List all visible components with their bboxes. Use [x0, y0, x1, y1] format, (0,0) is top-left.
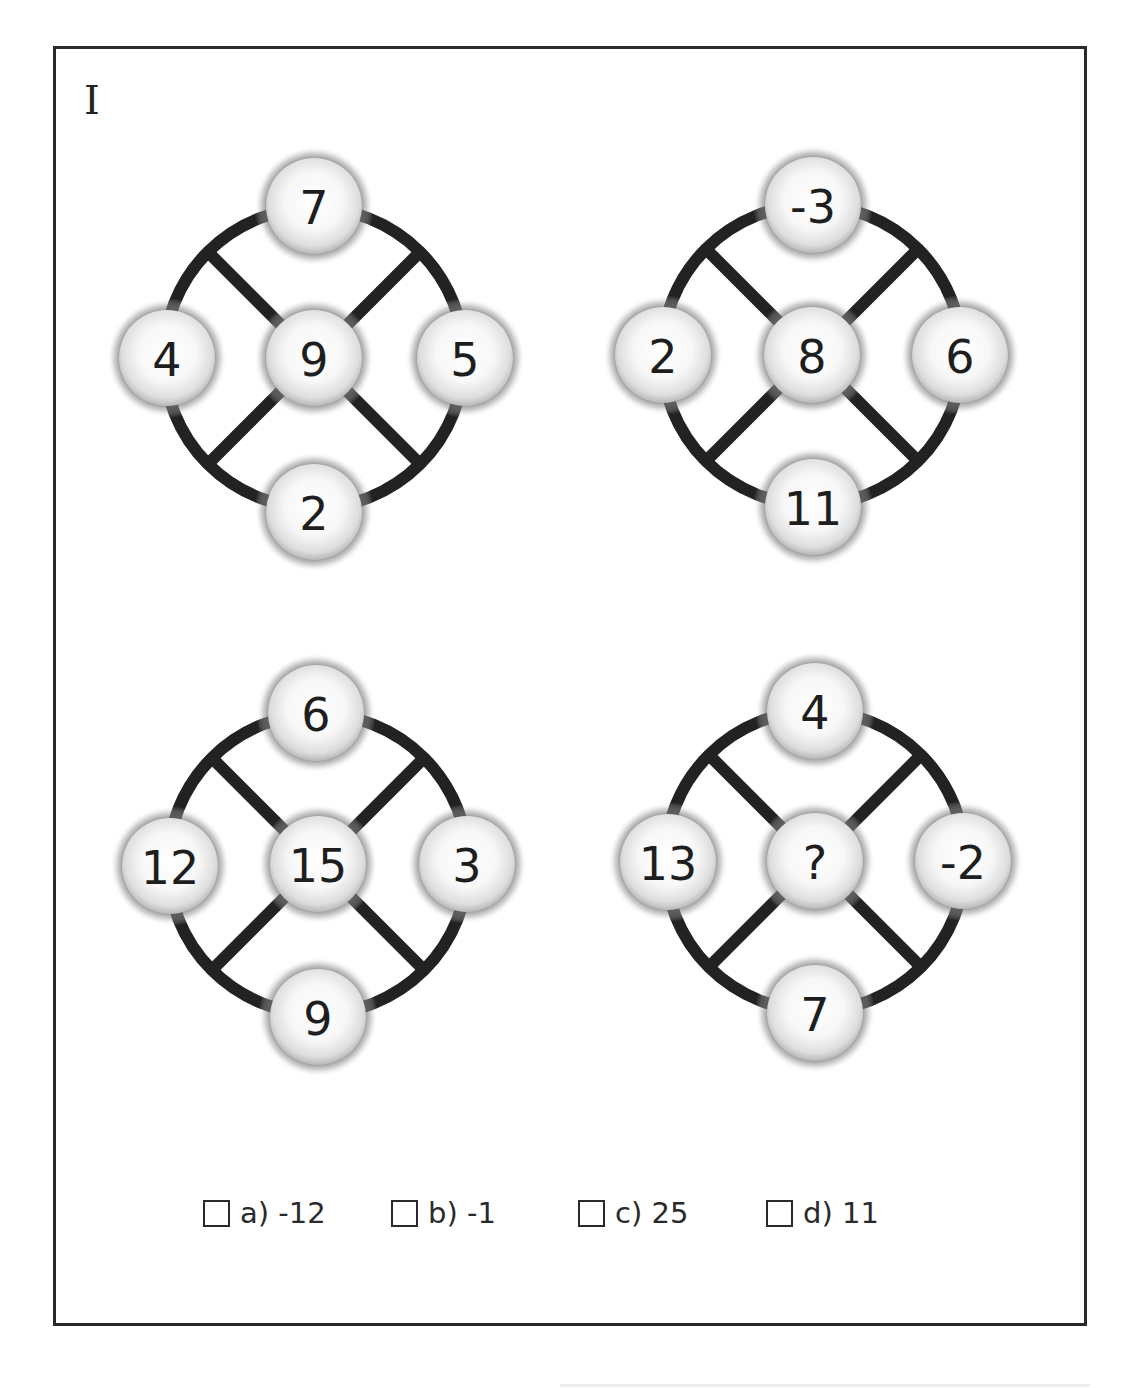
- puzzle-3: 6 12 3 9 15: [110, 653, 527, 1077]
- node-right: 3: [407, 804, 527, 924]
- node-top: -3: [753, 145, 873, 265]
- node-top: 6: [256, 653, 376, 773]
- node-center-value: 8: [797, 330, 826, 384]
- node-right: 6: [900, 295, 1020, 415]
- scan-artifact: [560, 1384, 1090, 1387]
- node-center: 8: [752, 295, 872, 415]
- node-center-unknown: ?: [755, 801, 875, 921]
- node-right-value: 5: [450, 333, 479, 387]
- node-bottom: 7: [755, 953, 875, 1073]
- node-bottom: 2: [254, 452, 374, 572]
- node-top: 4: [755, 651, 875, 771]
- node-right-value: 6: [945, 330, 974, 384]
- node-bottom-value: 2: [299, 487, 328, 541]
- node-top: 7: [254, 146, 374, 266]
- node-right-value: 3: [452, 839, 481, 893]
- option-c[interactable]: c) 25: [578, 1196, 688, 1230]
- node-bottom-value: 7: [800, 988, 829, 1042]
- node-left-value: 2: [648, 330, 677, 384]
- node-top-value: 7: [299, 181, 328, 235]
- node-bottom: 9: [258, 957, 378, 1077]
- node-top-value: 6: [301, 688, 330, 742]
- option-d-label: d) 11: [803, 1196, 879, 1230]
- option-a-label: a) -12: [240, 1196, 326, 1230]
- answer-options: a) -12 b) -1 c) 25 d) 11: [0, 1196, 1145, 1236]
- option-a[interactable]: a) -12: [203, 1196, 326, 1230]
- node-bottom-value: 9: [303, 992, 332, 1046]
- option-b[interactable]: b) -1: [391, 1196, 496, 1230]
- node-center: 9: [254, 298, 374, 418]
- option-a-checkbox[interactable]: [203, 1200, 230, 1227]
- puzzle-board: 7 4 5 2 9 -3: [0, 0, 1145, 1388]
- node-left-value: 13: [639, 837, 698, 891]
- node-left-value: 4: [152, 333, 181, 387]
- node-center-value: 15: [289, 839, 348, 893]
- node-left-value: 12: [141, 841, 200, 895]
- option-d[interactable]: d) 11: [766, 1196, 879, 1230]
- node-bottom: 11: [753, 447, 873, 567]
- node-top-value: -3: [790, 180, 836, 234]
- puzzle-1: 7 4 5 2 9: [107, 146, 525, 572]
- node-right: 5: [405, 298, 525, 418]
- option-b-checkbox[interactable]: [391, 1200, 418, 1227]
- puzzle-4: 4 13 -2 7 ?: [608, 651, 1023, 1073]
- option-c-label: c) 25: [615, 1196, 688, 1230]
- option-c-checkbox[interactable]: [578, 1200, 605, 1227]
- node-top-value: 4: [800, 686, 829, 740]
- node-right-value: -2: [940, 836, 986, 890]
- node-left: 13: [608, 802, 728, 922]
- node-left: 4: [107, 298, 227, 418]
- node-left: 2: [603, 295, 723, 415]
- option-d-checkbox[interactable]: [766, 1200, 793, 1227]
- node-left: 12: [110, 806, 230, 926]
- puzzle-2: -3 2 6 11 8: [603, 145, 1020, 567]
- node-center-value: ?: [803, 836, 827, 890]
- node-right: -2: [903, 801, 1023, 921]
- node-center: 15: [258, 804, 378, 924]
- option-b-label: b) -1: [428, 1196, 496, 1230]
- node-bottom-value: 11: [784, 482, 843, 536]
- node-center-value: 9: [299, 333, 328, 387]
